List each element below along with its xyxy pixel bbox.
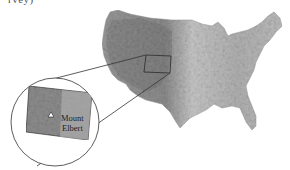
inset-label-line2: Elbert	[62, 123, 83, 133]
rocky-mountain-relief	[106, 18, 172, 92]
map-figure: Mount Elbert	[0, 0, 290, 170]
inset-label-line1: Mount	[61, 113, 84, 123]
